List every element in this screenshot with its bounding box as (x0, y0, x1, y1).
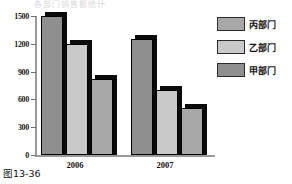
bar-丙部门[interactable] (181, 108, 203, 155)
y-tick-label: 0 (25, 151, 29, 160)
legend-swatch (217, 40, 245, 54)
figure-container: 各部门销售额统计 030060090012001500 20062007 丙部门… (0, 0, 292, 184)
legend-item[interactable]: 甲部门 (217, 63, 276, 77)
y-tick-label: 300 (18, 123, 29, 132)
bar-甲部门[interactable] (41, 16, 63, 155)
x-tick-label: 2006 (67, 160, 84, 170)
y-tick-mark (31, 127, 36, 128)
legend-label: 乙部门 (249, 41, 276, 54)
legend-item[interactable]: 乙部门 (217, 40, 276, 54)
bar-face (91, 79, 113, 155)
figure-caption: 图13-36 (3, 166, 41, 180)
legend-item[interactable]: 丙部门 (217, 17, 276, 31)
y-tick-mark (31, 155, 36, 156)
bar-乙部门[interactable] (66, 44, 88, 155)
y-tick-label: 900 (18, 67, 29, 76)
legend-label: 丙部门 (249, 18, 276, 31)
y-tick-mark (31, 44, 36, 45)
x-tick-label: 2007 (157, 160, 174, 170)
chart-title-faded: 各部门销售额统计 (34, 0, 166, 9)
bar-face (131, 39, 153, 155)
legend-swatch (217, 17, 245, 31)
y-tick-mark (31, 72, 36, 73)
bar-face (156, 90, 178, 155)
bar-甲部门[interactable] (131, 39, 153, 155)
y-tick-mark (31, 16, 36, 17)
bar-face (181, 108, 203, 155)
bar-group (41, 16, 121, 155)
y-tick-label: 1200 (14, 39, 29, 48)
bar-丙部门[interactable] (91, 79, 113, 155)
bar-乙部门[interactable] (156, 90, 178, 155)
x-axis (35, 155, 215, 157)
bar-face (41, 16, 63, 155)
chart-legend: 丙部门乙部门甲部门 (217, 17, 276, 77)
legend-label: 甲部门 (249, 64, 276, 77)
legend-swatch (217, 63, 245, 77)
y-tick-mark (31, 99, 36, 100)
y-tick-label: 1500 (14, 12, 29, 21)
bar-group (131, 16, 211, 155)
bar-series-area (37, 16, 215, 155)
plot-area: 030060090012001500 20062007 (35, 16, 215, 157)
bar-face (66, 44, 88, 155)
y-tick-label: 600 (18, 95, 29, 104)
